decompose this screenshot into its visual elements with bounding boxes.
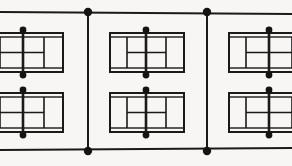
net-post-top bbox=[143, 27, 150, 34]
plan-background bbox=[0, 0, 292, 166]
net-post-top bbox=[20, 27, 27, 34]
net-post-bottom bbox=[266, 132, 273, 139]
fence-junction-bottom-left bbox=[84, 147, 92, 155]
net-post-bottom bbox=[143, 132, 150, 139]
net-post-bottom bbox=[20, 72, 27, 79]
tennis-court-site-plan bbox=[0, 0, 292, 166]
net-post-bottom bbox=[266, 72, 273, 79]
net-post-top bbox=[20, 87, 27, 94]
net-post-top bbox=[143, 87, 150, 94]
net-post-bottom bbox=[143, 72, 150, 79]
fence-junction-top-left bbox=[84, 8, 92, 16]
fence-junction-bottom-right bbox=[203, 147, 211, 155]
net-post-top bbox=[266, 27, 273, 34]
fence-junction-top-right bbox=[203, 8, 211, 16]
site-plan-canvas bbox=[0, 0, 292, 166]
net-post-bottom bbox=[20, 132, 27, 139]
net-post-top bbox=[266, 87, 273, 94]
